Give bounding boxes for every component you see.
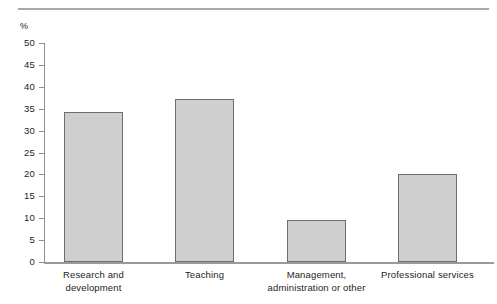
x-axis-category-label: Professional services <box>358 268 497 281</box>
y-axis-unit-label: % <box>20 21 28 31</box>
x-axis-line <box>44 262 494 264</box>
x-axis-category-label-line: Research and <box>34 268 154 281</box>
bar <box>398 174 457 262</box>
y-axis-tick-label: 20 <box>5 169 35 179</box>
header-divider <box>18 8 489 10</box>
x-axis-category-label-line: development <box>34 281 154 294</box>
bar <box>64 112 123 262</box>
y-axis-tick <box>39 240 44 241</box>
y-axis-tick <box>39 153 44 154</box>
y-axis-tick <box>39 262 44 263</box>
y-axis-tick-label: 50 <box>5 38 35 48</box>
y-axis-tick-label: 5 <box>5 235 35 245</box>
y-axis-tick <box>39 131 44 132</box>
y-axis-tick-label: 35 <box>5 104 35 114</box>
chart-figure: % 50454035302520151050 Research anddevel… <box>0 0 497 304</box>
y-axis-tick <box>39 43 44 44</box>
bar <box>175 99 234 262</box>
x-axis-category-label: Research anddevelopment <box>34 268 154 294</box>
y-axis-tick <box>39 65 44 66</box>
y-axis-tick-label: 15 <box>5 191 35 201</box>
y-axis-tick-label: 25 <box>5 148 35 158</box>
x-axis-category-label-line: administration or other <box>242 281 392 294</box>
y-axis-line <box>44 43 45 263</box>
y-axis-tick-label: 10 <box>5 213 35 223</box>
bar <box>287 220 346 262</box>
y-axis-tick-label: 0 <box>5 257 35 267</box>
y-axis-tick-label: 45 <box>5 60 35 70</box>
x-axis-category-label-line: Professional services <box>358 268 497 281</box>
y-axis-tick <box>39 87 44 88</box>
y-axis-tick-label: 30 <box>5 126 35 136</box>
y-axis-tick-label: 40 <box>5 82 35 92</box>
y-axis-tick <box>39 196 44 197</box>
y-axis-tick <box>39 174 44 175</box>
y-axis-tick <box>39 218 44 219</box>
y-axis-tick <box>39 109 44 110</box>
